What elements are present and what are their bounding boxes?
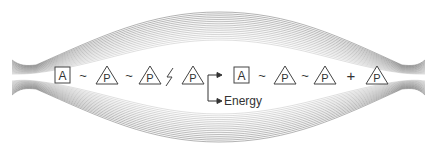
reaction-arrows [208,73,222,104]
product-phosphate-label-1: P [281,72,288,84]
phosphate-label-3: P [189,72,196,84]
phosphate-label-2: P [146,72,153,84]
plus-sign: + [347,67,356,84]
energy-arrowhead-icon [217,99,222,104]
phosphate-label-1: P [103,72,110,84]
adenosine-label-product: A [237,69,245,83]
products-adp-pi: A ~ P ~ P + P [234,66,388,84]
energy-label: Energy [224,94,262,108]
product-bond-1: ~ [258,68,266,83]
reactant-atp: A ~ P ~ P P [55,66,204,86]
product-arrowhead-icon [217,73,222,78]
product-bond-2: ~ [301,68,309,83]
free-phosphate-label: P [373,72,380,84]
high-energy-bond-1: ~ [79,68,87,83]
product-phosphate-label-2: P [321,72,328,84]
lightning-bond-break-icon [166,68,173,86]
atp-hydrolysis-diagram: A ~ P ~ P P Energy A ~ P ~ [0,0,438,152]
energy-arrow-line [208,75,218,101]
diagram-svg: A ~ P ~ P P Energy A ~ P ~ [0,0,438,152]
high-energy-bond-2: ~ [125,68,133,83]
adenosine-label: A [58,69,66,83]
